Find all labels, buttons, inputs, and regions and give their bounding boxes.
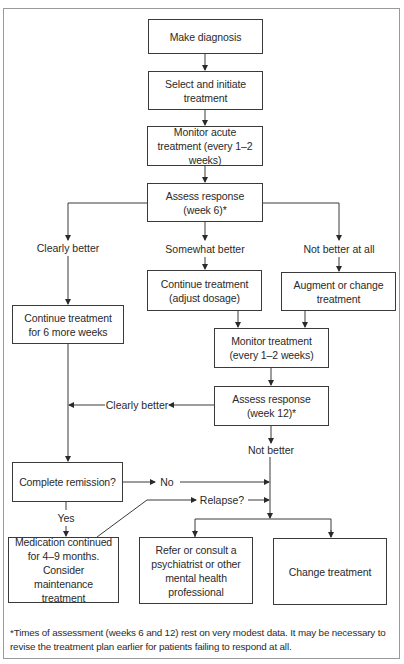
node-assess-response-week6: Assess response (week 6)* xyxy=(147,183,263,222)
node-text: Assess response (week 12)* xyxy=(219,392,324,420)
node-text: Select and initiate treatment xyxy=(153,77,258,105)
node-text: Change treatment xyxy=(289,565,371,579)
node-text: Continue treatment (adjust dosage) xyxy=(152,277,257,305)
label-clearly-better-week6: Clearly better xyxy=(37,242,99,255)
footnote: *Times of assessment (weeks 6 and 12) re… xyxy=(10,626,394,654)
label-yes: Yes xyxy=(57,512,74,525)
node-continue-6-more-weeks: Continue treatment for 6 more weeks xyxy=(12,305,124,344)
label-not-better: Not better xyxy=(248,444,294,457)
node-text: Monitor treatment (every 1–2 weeks) xyxy=(219,334,324,362)
node-make-diagnosis: Make diagnosis xyxy=(148,19,263,54)
node-change-treatment: Change treatment xyxy=(273,538,387,605)
node-monitor-treatment: Monitor treatment (every 1–2 weeks) xyxy=(214,328,329,368)
node-text: Refer or consult a psychiatrist or other… xyxy=(144,543,248,599)
node-text: Augment or change treatment xyxy=(286,278,391,306)
node-continue-adjust-dosage: Continue treatment (adjust dosage) xyxy=(147,270,262,311)
node-text: Make diagnosis xyxy=(170,30,242,44)
label-relapse: Relapse? xyxy=(200,494,244,507)
node-text: Complete remission? xyxy=(19,475,116,489)
node-text: Continue treatment for 6 more weeks xyxy=(17,311,119,339)
node-text: Medication continued for 4–9 months. Con… xyxy=(13,535,114,605)
node-text: Assess response (week 6)* xyxy=(152,189,258,217)
node-assess-response-week12: Assess response (week 12)* xyxy=(214,386,329,426)
node-complete-remission: Complete remission? xyxy=(12,462,123,502)
label-clearly-better-week12: Clearly better xyxy=(106,399,168,412)
node-monitor-acute-treatment: Monitor acute treatment (every 1–2 weeks… xyxy=(147,126,263,166)
label-somewhat-better: Somewhat better xyxy=(165,243,244,256)
node-augment-or-change: Augment or change treatment xyxy=(281,272,396,311)
node-text: Monitor acute treatment (every 1–2 weeks… xyxy=(152,125,258,167)
label-not-better-at-all: Not better at all xyxy=(303,243,374,256)
node-refer-or-consult: Refer or consult a psychiatrist or other… xyxy=(139,537,253,604)
node-medication-continued: Medication continued for 4–9 months. Con… xyxy=(8,537,119,603)
label-no: No xyxy=(160,476,173,489)
node-select-initiate-treatment: Select and initiate treatment xyxy=(148,71,263,110)
